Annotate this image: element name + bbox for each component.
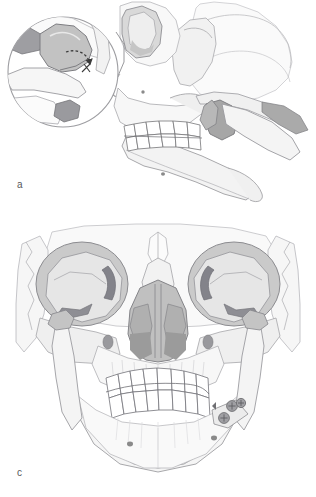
- panel-a-illustration: [0, 0, 316, 220]
- figure-root: a: [0, 0, 316, 497]
- lateral-skull-group: [112, 2, 308, 202]
- right-infraorbital-foramen: [203, 335, 213, 349]
- left-orbit-group: [36, 242, 128, 326]
- right-orbit-group: [188, 242, 280, 326]
- panel-c-frontal-view: [0, 222, 316, 497]
- condyle-magnification-inset: [4, 14, 118, 127]
- panel-a-lateral-view: [0, 0, 316, 220]
- screw-2[interactable]: [219, 413, 230, 424]
- left-mental-foramen: [127, 442, 133, 447]
- screw-3[interactable]: [236, 398, 245, 407]
- panel-c-label: c: [17, 468, 22, 478]
- screw-1[interactable]: [227, 401, 238, 412]
- mental-foramen: [161, 172, 165, 176]
- frontal-skull-group: [16, 224, 300, 472]
- infraorbital-foramen: [141, 90, 144, 93]
- panel-c-illustration: [0, 222, 316, 497]
- panel-a-label: a: [17, 180, 23, 190]
- lower-teeth-row: [109, 390, 210, 418]
- right-mental-foramen: [211, 436, 217, 441]
- left-infraorbital-foramen: [103, 335, 113, 349]
- inset-dark-fragment: [54, 100, 80, 122]
